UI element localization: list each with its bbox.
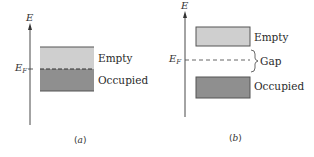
occupied-band-b <box>196 77 250 98</box>
occupied-band-label-b: Occupied <box>254 80 304 92</box>
band-diagram-figure: E EF Empty Occupied (a) E EF Empty Gap O… <box>0 0 314 157</box>
empty-band-label-b: Empty <box>254 31 289 43</box>
panel-b-graphics <box>183 11 258 117</box>
empty-band-label-a: Empty <box>98 52 133 64</box>
caption-letter: b <box>233 133 239 143</box>
panel-caption-a: (a) <box>74 135 86 145</box>
gap-brace-icon <box>251 50 258 72</box>
occupied-band-a <box>40 69 94 91</box>
diagram-graphics <box>0 0 314 157</box>
empty-band-b <box>196 27 250 46</box>
empty-band-a <box>40 47 94 69</box>
energy-axis-label-b: E <box>181 0 188 11</box>
occupied-band-label-a: Occupied <box>98 74 148 86</box>
axis-arrow-icon <box>183 11 187 18</box>
fermi-subscript: F <box>176 58 181 66</box>
fermi-level-label-b: EF <box>169 53 181 66</box>
axis-arrow-icon <box>28 23 32 30</box>
fermi-level-label-a: EF <box>15 62 27 75</box>
panel-caption-b: (b) <box>229 133 242 143</box>
caption-letter: a <box>78 135 83 145</box>
gap-label: Gap <box>260 55 281 67</box>
energy-axis-label-a: E <box>26 12 33 23</box>
panel-a-graphics <box>28 23 94 125</box>
fermi-subscript: F <box>22 67 27 75</box>
